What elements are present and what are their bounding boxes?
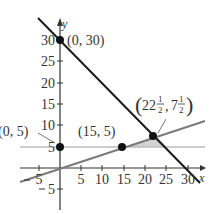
chart-canvas: y x 30 25 20 15 10 5 5 5 5 10 15 20 25 3… (0, 0, 217, 214)
svg-text:1: 1 (158, 94, 163, 104)
point-0-5 (56, 143, 64, 151)
point-22.5-7.5 (149, 132, 157, 140)
svg-text:7: 7 (171, 98, 178, 113)
y-tick-10: 10 (41, 118, 55, 133)
svg-text:22: 22 (142, 98, 156, 113)
x-tick-10: 10 (95, 172, 109, 187)
point-label-22.5-7.5: ( 22 1 2 , 7 1 2 ) (135, 92, 193, 117)
point-label-15-5: (15, 5) (78, 124, 116, 140)
x-tick-15: 15 (117, 172, 131, 187)
x-axis-label: x (198, 171, 205, 185)
y-axis-label: y (61, 17, 68, 31)
point-15-5 (118, 143, 126, 151)
svg-text:1: 1 (179, 94, 184, 104)
x-tick-25: 25 (159, 172, 173, 187)
point-label-0-5: (0, 5) (0, 124, 29, 140)
point-0-30 (56, 36, 64, 44)
svg-text:,: , (165, 99, 169, 114)
point-label-0-30: (0, 30) (67, 33, 105, 49)
svg-text:2: 2 (179, 105, 184, 115)
svg-text:2: 2 (158, 105, 163, 115)
y-tick-20: 20 (41, 76, 55, 91)
x-tick-neg5: 5 (36, 172, 43, 187)
y-tick-neg5: 5 (48, 182, 55, 197)
y-tick-5: 5 (48, 140, 55, 155)
y-tick-15: 15 (41, 97, 55, 112)
x-tick-30: 30 (181, 172, 195, 187)
y-tick-25: 25 (41, 54, 55, 69)
leader-line-p4 (158, 119, 166, 133)
svg-text:): ) (186, 92, 193, 117)
y-tick-30: 30 (41, 33, 55, 48)
x-tick-20: 20 (138, 172, 152, 187)
x-tick-5: 5 (78, 172, 85, 187)
